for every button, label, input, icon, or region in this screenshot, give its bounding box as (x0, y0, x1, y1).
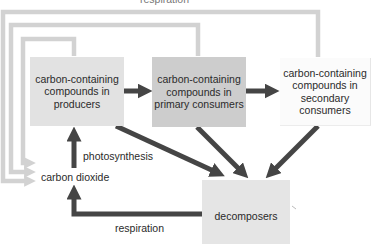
carbon-cycle-diagram: respiration carbon-containing compounds … (0, 0, 377, 244)
secondary-consumers-label: carbon-containing compounds in secondary… (282, 67, 368, 117)
secondary-consumers-box: carbon-containing compounds in secondary… (280, 58, 371, 126)
producers-box: carbon-containing compounds in producers (30, 57, 124, 126)
stray-mark (292, 206, 296, 209)
primary-consumers-box: carbon-containing compounds in primary c… (152, 57, 246, 127)
decomposers-box: decomposers (202, 180, 290, 244)
arrow-decomposers-to-co2 (74, 192, 202, 214)
photosynthesis-label: photosynthesis (83, 150, 153, 162)
arrow-secondary-to-decomposers (271, 126, 318, 173)
carbon-dioxide-label: carbon dioxide (41, 171, 109, 183)
decomposers-label: decomposers (214, 202, 277, 223)
producers-label: carbon-containing compounds in producers (32, 73, 122, 111)
top-respiration-label: respiration (140, 0, 189, 5)
primary-consumers-label: carbon-containing compounds in primary c… (154, 73, 244, 111)
bottom-respiration-label: respiration (115, 222, 164, 234)
